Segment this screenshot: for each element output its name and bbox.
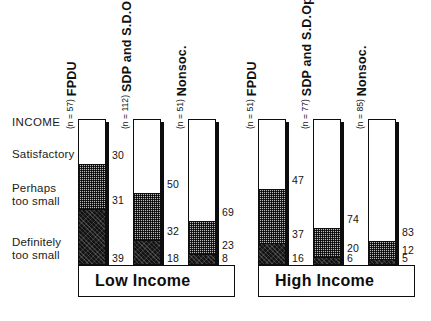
bar-shadow xyxy=(341,122,344,268)
party-label-high-fpdu: FPDU xyxy=(245,61,259,96)
segment-definitely-too-small xyxy=(134,240,160,265)
bar-high-sdp xyxy=(313,119,341,265)
group-box-low-income: Low Income xyxy=(78,265,235,297)
segment-satisfactory xyxy=(189,120,215,221)
segment-perhaps-too-small xyxy=(134,193,160,240)
value-definitely-high-sdp: 6 xyxy=(347,252,353,264)
segment-definitely-too-small xyxy=(79,209,105,265)
bar-header-low-sdp: (n = 112)SDP and S.D.Opp. xyxy=(121,0,135,129)
value-perhaps-low-nonsoc: 23 xyxy=(222,239,234,251)
axis-label-definitely-too-small: Definitely too small xyxy=(12,236,61,261)
sample-size-low-sdp: (n = 112) xyxy=(120,95,130,129)
sample-size-high-sdp: (n = 77) xyxy=(300,99,310,129)
value-perhaps-low-fpdu: 31 xyxy=(112,194,124,206)
value-satisfactory-high-fpdu: 47 xyxy=(292,174,304,186)
party-label-high-sdp: SDP and S.D.Opp. xyxy=(300,0,314,96)
segment-satisfactory xyxy=(314,120,340,228)
bar-high-nonsoc xyxy=(368,119,396,265)
sample-size-low-nonsoc: (n = 51) xyxy=(175,99,185,129)
segment-perhaps-too-small xyxy=(314,228,340,257)
value-perhaps-high-fpdu: 37 xyxy=(292,228,304,240)
party-label-low-fpdu: FPDU xyxy=(65,61,79,96)
value-perhaps-low-sdp: 32 xyxy=(167,225,179,237)
segment-satisfactory xyxy=(134,120,160,193)
segment-satisfactory xyxy=(79,120,105,164)
segment-perhaps-too-small xyxy=(79,164,105,209)
value-definitely-low-fpdu: 39 xyxy=(112,252,124,264)
axis-label-income: INCOME xyxy=(12,116,60,129)
party-label-low-nonsoc: Nonsoc. xyxy=(175,45,189,96)
group-label-high-income: High Income xyxy=(259,272,374,290)
sample-size-low-fpdu: (n = 57) xyxy=(65,99,75,129)
bar-low-sdp xyxy=(133,119,161,265)
group-box-high-income: High Income xyxy=(258,265,415,297)
sample-size-high-fpdu: (n = 51) xyxy=(245,99,255,129)
bar-high-fpdu xyxy=(258,119,286,265)
value-satisfactory-low-sdp: 50 xyxy=(167,178,179,190)
bar-shadow xyxy=(396,122,399,268)
segment-satisfactory xyxy=(259,120,285,189)
value-definitely-low-nonsoc: 8 xyxy=(222,252,228,264)
segment-definitely-too-small xyxy=(314,257,340,265)
value-definitely-high-fpdu: 16 xyxy=(292,252,304,264)
sample-size-high-nonsoc: (n = 85) xyxy=(355,99,365,129)
bar-header-high-sdp: (n = 77)SDP and S.D.Opp. xyxy=(301,0,315,129)
segment-perhaps-too-small xyxy=(259,189,285,243)
bar-low-nonsoc xyxy=(188,119,216,265)
value-satisfactory-high-sdp: 74 xyxy=(347,213,359,225)
stacked-bar-chart: INCOME Satisfactory Perhaps too small De… xyxy=(0,0,431,321)
bar-header-low-nonsoc: (n = 51)Nonsoc. xyxy=(176,45,190,129)
party-label-high-nonsoc: Nonsoc. xyxy=(355,45,369,96)
bar-header-high-fpdu: (n = 51)FPDU xyxy=(246,61,260,129)
group-label-low-income: Low Income xyxy=(79,272,190,290)
bar-header-high-nonsoc: (n = 85)Nonsoc. xyxy=(356,45,370,129)
bar-shadow xyxy=(161,122,164,268)
segment-definitely-too-small xyxy=(259,243,285,265)
segment-perhaps-too-small xyxy=(189,221,215,255)
value-satisfactory-high-nonsoc: 83 xyxy=(402,226,414,238)
value-satisfactory-low-fpdu: 30 xyxy=(112,149,124,161)
axis-label-perhaps-too-small: Perhaps too small xyxy=(12,182,60,207)
segment-satisfactory xyxy=(369,120,395,241)
segment-perhaps-too-small xyxy=(369,241,395,259)
bar-shadow xyxy=(106,122,109,268)
bar-shadow xyxy=(216,122,219,268)
value-satisfactory-low-nonsoc: 69 xyxy=(222,206,234,218)
bar-shadow xyxy=(286,122,289,268)
party-label-low-sdp: SDP and S.D.Opp. xyxy=(120,0,134,92)
value-definitely-low-sdp: 18 xyxy=(167,252,179,264)
bar-low-fpdu xyxy=(78,119,106,265)
value-definitely-high-nonsoc: 5 xyxy=(402,252,408,264)
bar-header-low-fpdu: (n = 57)FPDU xyxy=(66,61,80,129)
axis-label-satisfactory: Satisfactory xyxy=(12,148,74,161)
segment-definitely-too-small xyxy=(189,254,215,265)
